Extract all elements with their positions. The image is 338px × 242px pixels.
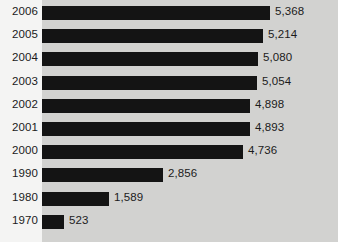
bar-row: 20055,214 — [0, 29, 338, 43]
value-label-2004: 5,080 — [263, 50, 292, 64]
value-label-2003: 5,054 — [262, 74, 291, 88]
category-label-2002: 2002 — [2, 97, 38, 111]
value-label-2001: 4,893 — [255, 120, 284, 134]
bar-chart: 20065,36820055,21420045,08020035,0542002… — [0, 0, 338, 242]
bar-row: 20045,080 — [0, 52, 338, 66]
value-label-1980: 1,589 — [114, 190, 143, 204]
category-label-2004: 2004 — [2, 50, 38, 64]
bar-2003 — [42, 76, 257, 90]
bar-row: 19902,856 — [0, 168, 338, 182]
bar-2001 — [42, 122, 250, 136]
bar-row: 1970523 — [0, 215, 338, 229]
bar-row: 20024,898 — [0, 99, 338, 113]
bar-row: 20065,368 — [0, 6, 338, 20]
bar-2000 — [42, 145, 243, 159]
category-label-2006: 2006 — [2, 4, 38, 18]
category-label-2000: 2000 — [2, 143, 38, 157]
bar-row: 20014,893 — [0, 122, 338, 136]
category-label-2003: 2003 — [2, 74, 38, 88]
value-label-2002: 4,898 — [255, 97, 284, 111]
bar-2004 — [42, 52, 258, 66]
value-label-2005: 5,214 — [268, 27, 297, 41]
bar-row: 19801,589 — [0, 192, 338, 206]
value-label-2006: 5,368 — [275, 4, 304, 18]
value-label-1990: 2,856 — [168, 166, 197, 180]
bar-rows: 20065,36820055,21420045,08020035,0542002… — [0, 0, 338, 242]
bar-2005 — [42, 29, 263, 43]
bar-2006 — [42, 6, 270, 20]
category-label-2001: 2001 — [2, 120, 38, 134]
bar-1980 — [42, 192, 109, 206]
bar-1970 — [42, 215, 64, 229]
value-label-1970: 523 — [69, 213, 89, 227]
bar-row: 20035,054 — [0, 76, 338, 90]
bar-1990 — [42, 168, 163, 182]
category-label-1970: 1970 — [2, 213, 38, 227]
category-label-2005: 2005 — [2, 27, 38, 41]
value-label-2000: 4,736 — [248, 143, 277, 157]
bar-2002 — [42, 99, 250, 113]
bar-row: 20004,736 — [0, 145, 338, 159]
category-label-1990: 1990 — [2, 166, 38, 180]
category-label-1980: 1980 — [2, 190, 38, 204]
